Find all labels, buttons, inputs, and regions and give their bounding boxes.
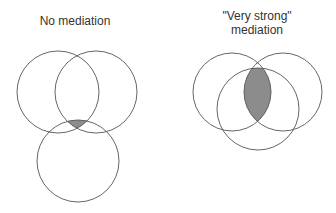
circle-m [37,120,119,202]
circle-y [55,51,137,133]
venn-diagrams [0,0,336,213]
